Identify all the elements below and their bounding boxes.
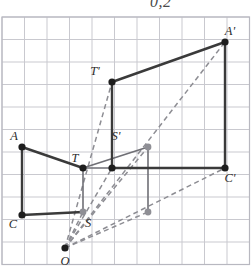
grid-layer: [2, 17, 250, 265]
vertex-point-B: [108, 164, 115, 171]
vertex-label-Ap: A': [224, 24, 236, 38]
vertex-label-C: C: [9, 217, 18, 231]
vertex-label-O: O: [60, 254, 69, 268]
vertex-point-Tp: [108, 78, 115, 85]
vertex-label-Cp: C': [224, 171, 235, 185]
vertex-point-A: [18, 143, 25, 150]
projection-figure: 0,2 OACTSS'T'A'C': [0, 0, 252, 270]
vertex-point-O: [61, 244, 68, 251]
vertex-point-T: [79, 164, 86, 171]
vertex-label-Tp: T': [90, 64, 100, 78]
geometry-diagram: OACTSS'T'A'C': [0, 0, 252, 270]
vertex-label-S: S: [85, 216, 92, 230]
vertex-point-Sp: [145, 144, 152, 151]
vertex-point-C: [18, 211, 25, 218]
vertex-point-S: [80, 209, 87, 216]
vertex-label-Sp: S': [112, 129, 121, 143]
vertex-point-D: [145, 209, 152, 216]
vertex-label-T: T: [72, 151, 80, 165]
vertex-label-A: A: [9, 129, 18, 143]
vertex-point-Ap: [221, 38, 228, 45]
